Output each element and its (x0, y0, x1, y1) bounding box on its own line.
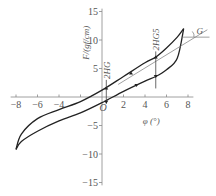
y-tick-label: −15 (82, 177, 98, 188)
x-axis-label: φ (°) (143, 116, 160, 126)
x-tick-label: 2 (121, 99, 126, 110)
y-tick-label: 5 (93, 63, 98, 74)
axes: −8−6−42468O−15−10−551015F/(gf/cm)φ (°) (11, 6, 194, 188)
label-G: G (197, 26, 204, 36)
x-tick-label: 6 (164, 99, 169, 110)
2HG5-label: 2HG5 (151, 28, 161, 50)
x-tick-label: −8 (11, 99, 22, 110)
y-tick-label: 15 (88, 6, 98, 17)
y-tick-label: −5 (87, 120, 98, 131)
y-tick-label: −10 (82, 149, 98, 160)
slope-line-G (118, 30, 207, 85)
2HG-label: 2HG (102, 61, 112, 79)
annotations: G2HG2HG5 (102, 26, 210, 104)
x-tick-label: −6 (32, 99, 43, 110)
hysteresis-chart: −8−6−42468O−15−10−551015F/(gf/cm)φ (°) G… (0, 0, 216, 196)
y-axis-label: F/(gf/cm) (81, 26, 91, 61)
x-tick-label: 4 (143, 99, 148, 110)
angle-arc-G (192, 31, 194, 37)
x-tick-label: 8 (186, 99, 191, 110)
